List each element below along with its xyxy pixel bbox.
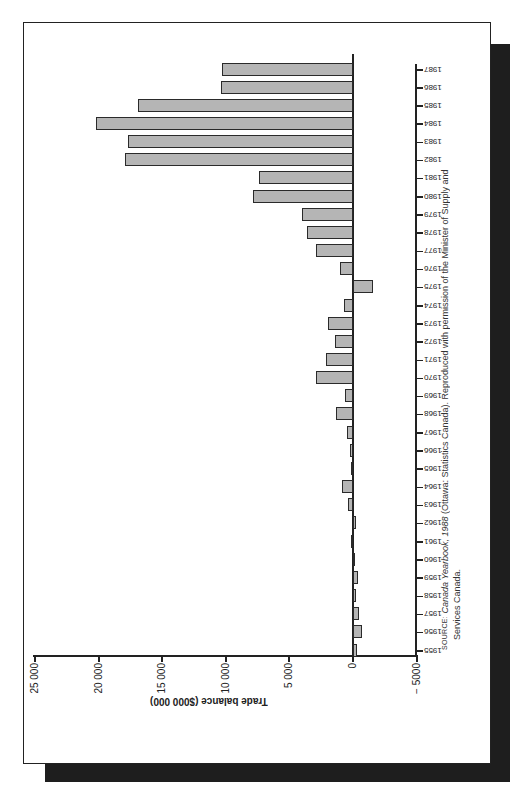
year-tick	[417, 214, 423, 216]
year-tick	[417, 69, 423, 71]
bar-1971	[326, 353, 353, 366]
year-tick	[417, 414, 423, 416]
year-tick	[417, 305, 423, 307]
year-label: 1982	[424, 155, 442, 164]
year-tick	[417, 196, 423, 198]
value-tick-label: 20 000	[93, 663, 104, 694]
source-book: Canada Yearbook, 1988	[440, 517, 450, 614]
year-tick	[417, 105, 423, 107]
year-tick	[417, 232, 423, 234]
bar-1967	[347, 426, 353, 439]
bar-1974	[344, 299, 353, 312]
bar-1964	[342, 480, 353, 493]
year-tick	[417, 341, 423, 343]
year-tick	[417, 160, 423, 162]
bar-1985	[138, 99, 353, 112]
year-tick	[417, 178, 423, 180]
value-tick-label: 10 000	[220, 663, 231, 694]
year-tick	[417, 287, 423, 289]
bar-1972	[335, 335, 353, 348]
year-tick	[417, 450, 423, 452]
value-tick-label: 5 000	[283, 663, 294, 688]
bar-1961	[351, 535, 353, 548]
year-tick	[417, 360, 423, 362]
year-tick	[417, 487, 423, 489]
value-tick	[352, 655, 354, 662]
year-tick	[417, 396, 423, 398]
year-tick	[417, 614, 423, 616]
source-prefix: SOURCE:	[441, 616, 448, 650]
bar-1973	[328, 317, 353, 330]
value-tick	[34, 655, 36, 662]
value-tick-label: 15 000	[156, 663, 167, 694]
bar-1976	[340, 262, 353, 275]
bar-1977	[316, 244, 353, 257]
value-tick	[98, 655, 100, 662]
bar-1960	[353, 553, 355, 566]
bar-1978	[307, 226, 353, 239]
bar-1957	[353, 607, 359, 620]
bar-1965	[351, 462, 353, 475]
bar-1979	[302, 208, 353, 221]
value-tick	[225, 655, 227, 662]
trade-balance-bar-chart: 25 00020 00015 00010 0005 0000− 5000 195…	[0, 0, 522, 786]
year-tick	[417, 251, 423, 253]
value-tick	[288, 655, 290, 662]
bar-1980	[253, 190, 353, 203]
source-note-line1: SOURCE: Canada Yearbook, 1988 (Ottawa: S…	[440, 180, 450, 650]
bar-1970	[316, 371, 353, 384]
year-tick	[417, 650, 423, 652]
year-tick	[417, 87, 423, 89]
year-tick	[417, 632, 423, 634]
bar-1984	[96, 117, 353, 130]
source-line1: (Ottawa: Statistics Canada). Reproduced …	[440, 169, 450, 516]
bar-1956	[353, 625, 362, 638]
year-tick	[417, 523, 423, 525]
year-tick	[417, 378, 423, 380]
bar-1962	[353, 516, 356, 529]
bar-1986	[221, 81, 353, 94]
value-tick-label: 25 000	[29, 663, 40, 694]
source-line2: Services Canada.	[452, 569, 462, 640]
bar-1969	[345, 389, 353, 402]
year-tick	[417, 468, 423, 470]
bar-1981	[259, 171, 353, 184]
value-tick	[416, 655, 418, 662]
year-tick	[417, 559, 423, 561]
year-tick	[417, 596, 423, 598]
bar-1975	[353, 280, 373, 293]
year-tick	[417, 323, 423, 325]
bar-1982	[125, 153, 353, 166]
year-tick	[417, 432, 423, 434]
value-tick-label: − 5000	[411, 663, 422, 694]
year-label: 1986	[424, 83, 442, 92]
value-tick	[161, 655, 163, 662]
year-tick	[417, 142, 423, 144]
bar-1959	[353, 571, 358, 584]
year-label: 1987	[424, 65, 442, 74]
year-label: 1983	[424, 137, 442, 146]
year-tick	[417, 269, 423, 271]
year-label: 1985	[424, 101, 442, 110]
bar-1983	[128, 135, 353, 148]
source-note-line2: Services Canada.	[452, 560, 462, 640]
year-label: 1984	[424, 119, 442, 128]
bar-1968	[336, 407, 353, 420]
bar-1963	[348, 498, 353, 511]
value-tick-label: 0	[347, 663, 358, 669]
year-tick	[417, 505, 423, 507]
bar-1966	[350, 444, 353, 457]
year-tick	[417, 541, 423, 543]
year-tick	[417, 577, 423, 579]
year-tick	[417, 123, 423, 125]
bar-1958	[353, 589, 356, 602]
bar-1987	[222, 63, 353, 76]
axis-title: Trade balance ($000 000)	[150, 696, 268, 707]
